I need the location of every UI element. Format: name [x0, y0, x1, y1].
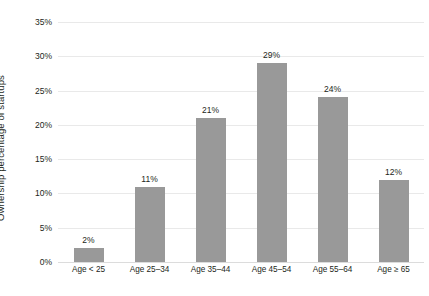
bar-value-label: 29%: [263, 51, 280, 60]
bar[interactable]: [257, 63, 287, 262]
x-tick-label: Age 55–64: [313, 266, 353, 274]
x-axis-labels: Age < 25Age 25–34Age 35–44Age 45–54Age 5…: [58, 266, 424, 282]
bar-value-label: 2%: [82, 236, 94, 245]
bar-slot: 21%: [180, 22, 241, 262]
bar-chart: Ownership percentage of startups 0%5%10%…: [0, 0, 429, 296]
bar[interactable]: [379, 180, 409, 262]
bar-value-label: 21%: [202, 106, 219, 115]
y-tick-label: 25%: [22, 86, 52, 95]
x-tick-label: Age 35–44: [191, 266, 231, 274]
y-tick-label: 30%: [22, 52, 52, 61]
plot-area: 0%5%10%15%20%25%30%35%2%11%21%29%24%12%: [58, 22, 424, 262]
bar-slot: 11%: [119, 22, 180, 262]
bar[interactable]: [318, 97, 348, 262]
bar-slot: 29%: [241, 22, 302, 262]
y-tick-label: 35%: [22, 18, 52, 27]
x-tick-label: Age < 25: [72, 266, 105, 274]
x-tick-label: Age 45–54: [252, 266, 292, 274]
bar[interactable]: [135, 187, 165, 262]
y-tick-label: 0%: [22, 258, 52, 267]
y-tick-label: 10%: [22, 189, 52, 198]
bar[interactable]: [74, 248, 104, 262]
y-axis-title: Ownership percentage of startups: [0, 0, 18, 296]
bar-value-label: 12%: [385, 168, 402, 177]
gridline: [58, 262, 424, 263]
bar[interactable]: [196, 118, 226, 262]
bar-slot: 24%: [302, 22, 363, 262]
x-tick-label: Age ≥ 65: [377, 266, 410, 274]
y-tick-label: 20%: [22, 121, 52, 130]
bar-slot: 12%: [363, 22, 424, 262]
x-tick-label: Age 25–34: [130, 266, 170, 274]
y-tick-label: 15%: [22, 155, 52, 164]
bar-slot: 2%: [58, 22, 119, 262]
bar-value-label: 11%: [141, 175, 157, 184]
bar-value-label: 24%: [324, 85, 341, 94]
y-tick-label: 5%: [22, 223, 52, 232]
